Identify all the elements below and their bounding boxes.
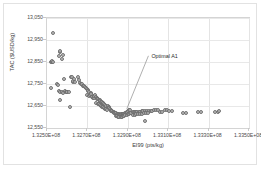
scatter-point bbox=[67, 90, 71, 94]
chart-container: 12,55012,65012,75012,85012,95013,050 1.3… bbox=[0, 0, 261, 169]
gridline-horizontal bbox=[47, 62, 249, 63]
scatter-point bbox=[184, 111, 188, 115]
scatter-point bbox=[62, 77, 66, 81]
y-axis-title: TAC ($USD/kg) bbox=[9, 22, 15, 82]
y-axis-tick-label: 12,950 bbox=[27, 36, 43, 42]
scatter-point bbox=[68, 105, 72, 109]
x-axis-tick-mark bbox=[248, 128, 249, 131]
y-axis-tick-mark bbox=[43, 39, 46, 40]
y-axis-tick-label: 12,850 bbox=[27, 58, 43, 64]
scatter-point bbox=[51, 60, 55, 64]
y-axis-tick-label: 12,650 bbox=[27, 102, 43, 108]
scatter-point bbox=[61, 53, 65, 57]
gridline-horizontal bbox=[47, 40, 249, 41]
scatter-point bbox=[58, 98, 62, 102]
gridline-vertical bbox=[209, 18, 210, 128]
y-axis-tick-label: 13,050 bbox=[27, 14, 43, 20]
y-axis-tick-mark bbox=[43, 83, 46, 84]
x-axis-tick-mark bbox=[127, 128, 128, 131]
y-axis-tick-label: 12,750 bbox=[27, 80, 43, 86]
gridline-horizontal bbox=[47, 84, 249, 85]
y-axis-tick-mark bbox=[43, 17, 46, 18]
scatter-point bbox=[199, 110, 203, 114]
x-axis-tick-mark bbox=[208, 128, 209, 131]
x-axis-tick-label: 1.3350E+08 bbox=[234, 132, 261, 138]
x-axis-tick-label: 1.3270E+08 bbox=[72, 132, 100, 138]
chart-frame: 12,55012,65012,75012,85012,95013,050 1.3… bbox=[3, 3, 257, 165]
y-axis-tick-mark bbox=[43, 61, 46, 62]
x-axis-tick-label: 1.3310E+08 bbox=[153, 132, 181, 138]
scatter-point bbox=[56, 83, 60, 87]
scatter-point bbox=[217, 109, 221, 113]
scatter-point bbox=[51, 31, 55, 35]
y-axis-tick-mark bbox=[43, 105, 46, 106]
x-axis-tick-label: 1.3250E+08 bbox=[32, 132, 60, 138]
scatter-point bbox=[170, 109, 174, 113]
gridline-vertical bbox=[87, 18, 88, 128]
x-axis-tick-label: 1.3330E+08 bbox=[194, 132, 222, 138]
x-axis-title: EI99 (pts/kg) bbox=[46, 142, 250, 148]
scatter-point bbox=[49, 86, 53, 90]
annotation-optimal-a1-label: Optimal A1 bbox=[151, 53, 177, 59]
scatter-point bbox=[60, 57, 64, 61]
scatter-point bbox=[143, 119, 147, 123]
x-axis-tick-mark bbox=[46, 128, 47, 131]
gridline-vertical bbox=[249, 18, 250, 128]
plot-area bbox=[46, 17, 250, 129]
gridline-horizontal bbox=[47, 18, 249, 19]
gridline-horizontal bbox=[47, 106, 249, 107]
x-axis-tick-label: 1.3290E+08 bbox=[113, 132, 141, 138]
x-axis-tick-mark bbox=[167, 128, 168, 131]
x-axis-tick-mark bbox=[86, 128, 87, 131]
y-axis-tick-label: 12,550 bbox=[27, 124, 43, 130]
y-axis-tick-labels: 12,55012,65012,75012,85012,95013,050 bbox=[12, 17, 43, 129]
